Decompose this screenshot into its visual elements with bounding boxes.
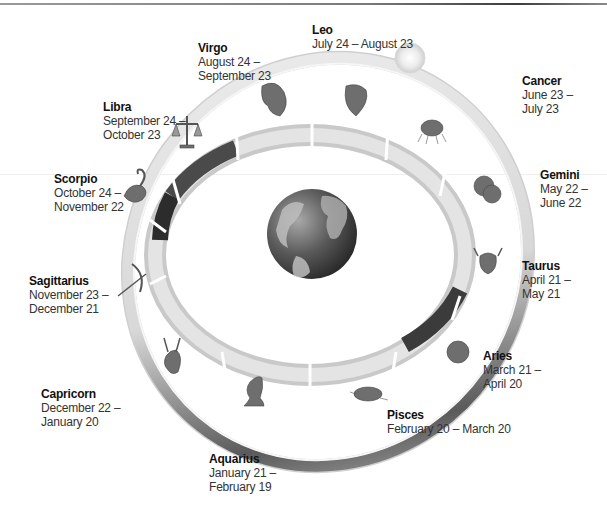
sign-name: Aries (483, 349, 541, 363)
twins-icon (474, 176, 501, 203)
sign-dates: February 20 – March 20 (387, 422, 511, 436)
sign-label-virgo: Virgo August 24 – September 23 (198, 41, 271, 83)
sign-dates: May 22 – June 22 (540, 182, 588, 210)
sign-dates: April 21 – May 21 (522, 273, 571, 301)
sign-label-capricorn: Capricorn December 22 – January 20 (41, 387, 120, 429)
sign-label-libra: Libra September 24 – October 23 (103, 100, 186, 142)
sign-name: Sagittarius (29, 274, 108, 288)
goat-head-icon (164, 338, 181, 374)
sign-name: Libra (103, 100, 186, 114)
sign-label-pisces: Pisces February 20 – March 20 (387, 408, 511, 436)
sign-label-gemini: Gemini May 22 – June 22 (540, 168, 588, 210)
sign-label-aquarius: Aquarius January 21 – February 19 (209, 452, 276, 494)
sign-name: Pisces (387, 408, 511, 422)
sign-dates: December 22 – January 20 (41, 401, 120, 429)
bull-head-icon (474, 248, 502, 274)
sign-label-aries: Aries March 21 – April 20 (483, 349, 541, 391)
ram-head-icon (447, 341, 469, 363)
maiden-icon (262, 83, 287, 116)
sign-dates: June 23 – July 23 (522, 88, 573, 116)
sign-dates: August 24 – September 23 (198, 55, 271, 83)
sign-name: Leo (312, 23, 413, 37)
sign-name: Scorpio (54, 172, 124, 186)
sign-name: Gemini (540, 168, 588, 182)
sign-dates: October 24 – November 22 (54, 186, 124, 214)
lion-head-icon (345, 85, 367, 116)
sign-name: Virgo (198, 41, 271, 55)
sign-name: Taurus (522, 259, 571, 273)
fish-icon (350, 387, 388, 401)
sign-name: Capricorn (41, 387, 120, 401)
sign-dates: January 21 – February 19 (209, 466, 276, 494)
earth-globe (267, 189, 357, 279)
sign-label-cancer: Cancer June 23 – July 23 (522, 74, 573, 116)
sign-dates: July 24 – August 23 (312, 37, 413, 51)
sign-dates: November 23 – December 21 (29, 288, 108, 316)
sign-label-sagittarius: Sagittarius November 23 – December 21 (29, 274, 108, 316)
sign-dates: March 21 – April 20 (483, 363, 541, 391)
water-bearer-icon (244, 377, 264, 406)
sign-dates: September 24 – October 23 (103, 114, 186, 142)
sign-label-taurus: Taurus April 21 – May 21 (522, 259, 571, 301)
sign-label-scorpio: Scorpio October 24 – November 22 (54, 172, 124, 214)
sign-label-leo: Leo July 24 – August 23 (312, 23, 413, 51)
crab-icon (418, 120, 446, 144)
sign-name: Cancer (522, 74, 573, 88)
zodiac-diagram (0, 0, 607, 512)
sign-name: Aquarius (209, 452, 276, 466)
